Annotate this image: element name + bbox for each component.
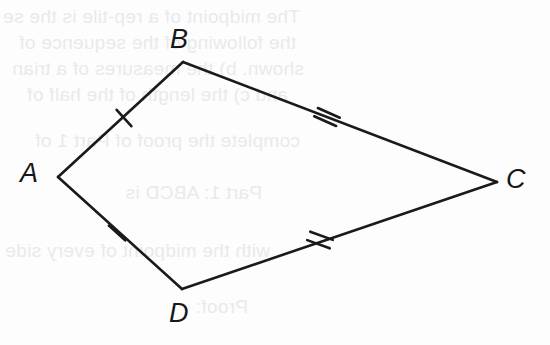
sides-group bbox=[58, 62, 497, 289]
quadrilateral-diagram bbox=[0, 0, 550, 345]
tick-stroke bbox=[310, 232, 333, 240]
vertex-label-a: A bbox=[20, 160, 38, 187]
vertex-label-d: D bbox=[169, 300, 189, 327]
vertex-label-c: C bbox=[506, 166, 526, 193]
side-cd bbox=[182, 182, 497, 289]
tick-stroke bbox=[318, 108, 340, 118]
side-da bbox=[58, 177, 182, 289]
tick-da bbox=[109, 226, 125, 241]
side-bc bbox=[183, 62, 497, 182]
geometry-figure: The midpoint of a rep-tile is the sethe … bbox=[0, 0, 550, 345]
tick-stroke bbox=[109, 226, 125, 241]
vertex-label-b: B bbox=[170, 26, 188, 53]
tick-marks-group bbox=[109, 108, 340, 248]
side-ab bbox=[58, 62, 183, 177]
